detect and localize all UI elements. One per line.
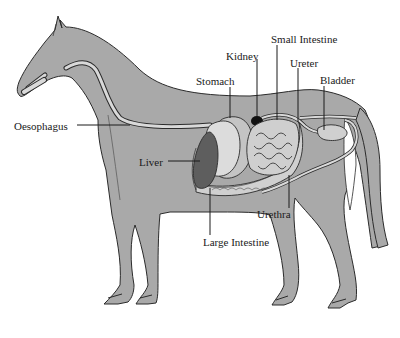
label-kidney: Kidney	[226, 50, 258, 62]
label-large-intestine: Large Intestine	[203, 236, 269, 248]
label-bladder: Bladder	[320, 74, 355, 86]
label-liver: Liver	[139, 156, 163, 168]
label-oesophagus: Oesophagus	[14, 120, 68, 132]
horse-illustration	[0, 0, 400, 338]
label-stomach: Stomach	[196, 75, 235, 87]
label-small-intestine: Small Intestine	[271, 33, 337, 45]
label-urethra: Urethra	[257, 208, 291, 220]
label-ureter: Ureter	[290, 57, 318, 69]
horse-anatomy-diagram: Small Intestine Kidney Ureter Stomach Bl…	[0, 0, 400, 338]
